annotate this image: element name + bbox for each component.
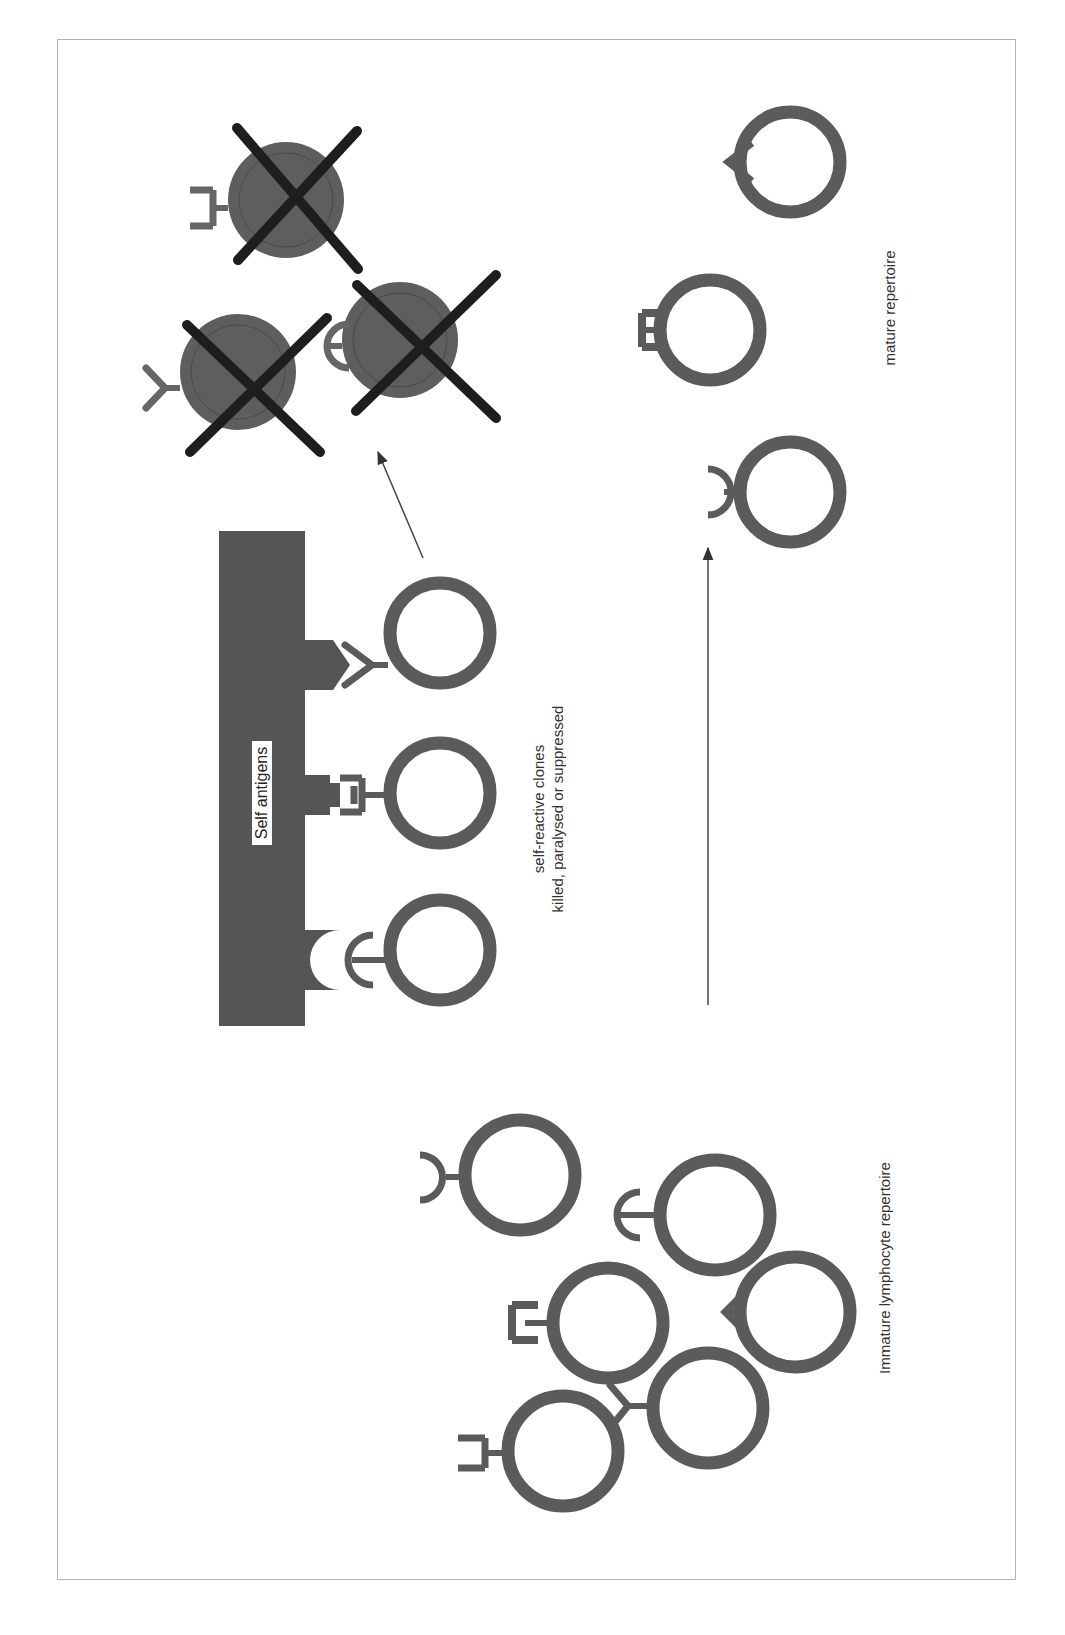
self-reactive-cell-1	[345, 583, 490, 685]
self-reactive-caption: self-reactive clones killed, paralysed o…	[529, 659, 569, 959]
self-reactive-cell-3	[348, 900, 490, 1000]
immature-cell-half-circle	[420, 1120, 575, 1230]
immature-cell-hook	[458, 1396, 618, 1506]
deleted-cell-1	[190, 128, 358, 269]
deletion-arrow	[378, 452, 423, 558]
self-antigen-bar	[219, 531, 350, 1026]
immature-cell-arrowhead	[725, 1257, 850, 1367]
self-antigens-label: Self antigens	[252, 741, 272, 845]
self-reactive-cell-2	[340, 743, 490, 843]
mature-cell-half-circle	[708, 442, 840, 542]
diagram-canvas: Self antigens self-reactive clones kille…	[0, 0, 1065, 1635]
mature-repertoire-label: mature repertoire	[880, 238, 900, 378]
self-reactive-line-2: killed, paralysed or suppressed	[548, 659, 567, 959]
deleted-cell-3	[146, 314, 327, 452]
immature-cell-e-shape	[512, 1268, 663, 1378]
deleted-cell-2	[325, 275, 496, 418]
mature-cell-arrowhead	[728, 112, 840, 212]
immature-repertoire-label: Immature lymphocyte repertoire	[875, 1158, 895, 1378]
mature-cell-e-shape	[642, 280, 760, 380]
immature-cell-c-bracket	[617, 1160, 770, 1270]
self-reactive-line-1: self-reactive clones	[529, 659, 548, 959]
